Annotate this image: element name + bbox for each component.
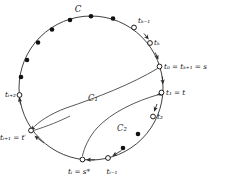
node-t-k (148, 41, 153, 46)
node-t-i-plus-1 (29, 128, 34, 133)
filled-dot (25, 58, 30, 63)
label-outer-curve-c: C (75, 4, 82, 14)
label-t-k-minus-1: tₖ₋₁ (138, 16, 150, 25)
filled-dot (136, 132, 141, 137)
filled-dot (19, 75, 24, 80)
filled-dot (36, 40, 41, 45)
label-t-i-plus-1: tᵢ₊₁ = t′ (0, 133, 26, 142)
filled-dot (111, 16, 116, 21)
filled-dot (50, 27, 55, 32)
filled-dot (121, 146, 126, 151)
label-t-1: t₁ = t (166, 88, 185, 97)
filled-dot (68, 18, 73, 23)
c2-tail-connector (34, 116, 71, 131)
label-curve-c2: C₂ (117, 123, 127, 133)
figure-canvas: C C₁ C₂ tₖ₋₁ tₖ t₀ = tₖ₊₁ = s t₁ = t t₂ … (0, 0, 227, 187)
node-t-i-plus-2 (17, 93, 22, 98)
label-t-2: t₂ (157, 112, 163, 121)
node-t-0 (157, 64, 162, 69)
node-t-2 (151, 114, 156, 119)
node-t-i-minus-1 (106, 156, 111, 161)
outer-circle-c (19, 16, 163, 160)
label-t-i-minus-1: tᵢ₋₁ (106, 167, 117, 176)
node-t-k-minus-1 (132, 25, 137, 30)
node-t-1 (159, 90, 164, 95)
node-t-i (80, 157, 85, 162)
label-t-i-plus-2: tᵢ₊₂ (5, 90, 16, 99)
label-t-i: tᵢ = s* (68, 167, 91, 176)
label-t-k: tₖ (154, 38, 160, 47)
filled-dot (89, 14, 94, 19)
label-curve-c1: C₁ (88, 93, 98, 103)
label-t-0: t₀ = tₖ₊₁ = s (164, 62, 207, 71)
